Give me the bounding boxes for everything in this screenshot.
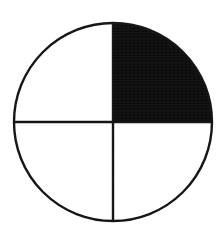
figure-root (0, 0, 222, 231)
pie-slice-lower-left (14, 122, 113, 221)
pie-slice-upper-right (113, 23, 212, 122)
pie-slice-upper-left (14, 23, 113, 122)
pie-slice-lower-right (113, 122, 212, 221)
fraction-circle-diagram (0, 0, 222, 231)
